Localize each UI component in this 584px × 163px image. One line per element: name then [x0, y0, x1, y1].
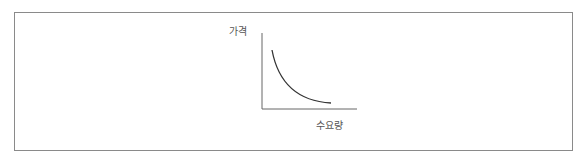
- demand-curve-graph: [0, 0, 584, 163]
- x-axis-label: 수요량: [316, 117, 343, 132]
- y-axis-label: 가격: [229, 23, 247, 38]
- demand-curve: [272, 50, 331, 103]
